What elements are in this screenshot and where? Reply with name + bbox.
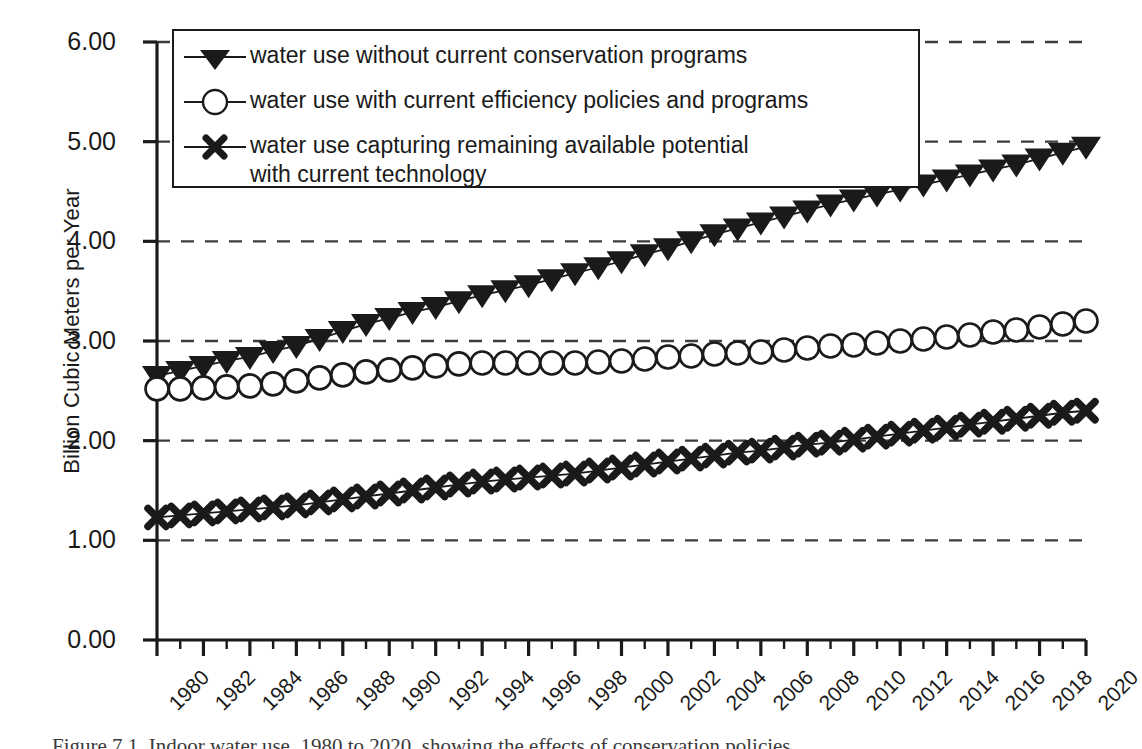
legend-entry-0: water use without current conservation p… [184, 41, 747, 72]
x-mark-icon [184, 132, 246, 162]
circle-open-icon [184, 87, 246, 117]
legend-entry-1: water use with current efficiency polici… [184, 86, 808, 117]
series-1 [146, 310, 1098, 401]
series-2 [148, 402, 1095, 527]
legend-label-2: water use capturing remaining available … [250, 131, 749, 189]
chart-legend: water use without current conservation p… [172, 29, 920, 188]
triangle-down-icon [184, 42, 246, 72]
figure-caption-text: Figure 7.1. Indoor water use, 1980 to 20… [52, 738, 791, 749]
legend-entry-2: water use capturing remaining available … [184, 131, 749, 189]
legend-label-0: water use without current conservation p… [250, 41, 747, 70]
figure-caption: Figure 7.1. Indoor water use, 1980 to 20… [0, 738, 1119, 749]
legend-label-1: water use with current efficiency polici… [250, 86, 808, 115]
